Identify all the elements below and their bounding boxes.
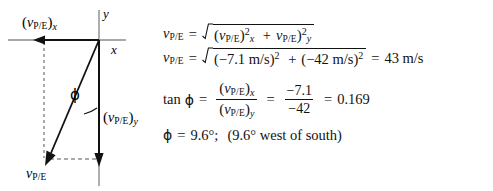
resultant-label-sub: P/E xyxy=(32,172,46,182)
equation-line-4: ϕ = 9.6°; (9.6° west of south) xyxy=(163,127,489,144)
eq3-num-axis: x xyxy=(250,87,254,98)
eq3-den-sub: P/E xyxy=(231,109,245,119)
eq2-term1-sup: 2 xyxy=(275,50,280,61)
eq3-numeric-fraction: −7.1 −42 xyxy=(284,83,315,116)
y-component-label-sub: P/E xyxy=(114,116,128,126)
eq3-fraction-numerator: (vP/E)x xyxy=(216,80,257,100)
radical-tick-1 xyxy=(202,24,213,44)
eq1-equals: = xyxy=(184,26,202,43)
eq1-radicand: (vP/E)2x +vP/E)2y xyxy=(213,24,314,44)
eq3-tan: tan xyxy=(163,91,181,108)
equation-block: vP/E = (vP/E)2x +vP/E)2y vP/E = xyxy=(163,24,489,144)
x-component-label-sub: P/E xyxy=(33,21,47,31)
eq2-lhs-sub: P/E xyxy=(169,57,183,67)
eq1-term1-sub: P/E xyxy=(225,34,239,44)
eq1-radical: (vP/E)2x +vP/E)2y xyxy=(202,24,314,44)
eq3-numeric-denominator: −42 xyxy=(285,99,313,116)
eq4-value: 9.6°; xyxy=(190,127,218,144)
eq3-equals-2: = xyxy=(261,91,279,108)
x-component-label-axis: x xyxy=(53,21,57,32)
eq3-den-axis: y xyxy=(250,108,254,119)
eq4-note: (9.6° west of south) xyxy=(227,127,342,144)
eq1-term2-sub: P/E xyxy=(282,34,296,44)
eq2-equals: = xyxy=(184,50,202,67)
angle-arc xyxy=(84,108,97,114)
x-component-arrowhead xyxy=(33,36,45,45)
eq3-equals: = xyxy=(194,91,212,108)
eq2-equals-2: = xyxy=(366,50,384,67)
eq2-radicand: (−7.1 m/s)2 +(−42 m/s)2 xyxy=(213,48,366,68)
y-component-label-axis: y xyxy=(134,116,138,127)
figure-page: y x (vP/E)x (vP/E)y vP/E ϕ vP/E = xyxy=(0,0,493,191)
angle-phi-symbol: ϕ xyxy=(70,88,80,103)
eq3-result: 0.169 xyxy=(337,91,370,108)
eq2-result: 43 m/s xyxy=(384,50,423,67)
eq2-plus: + xyxy=(283,51,301,67)
equation-line-1: vP/E = (vP/E)2x +vP/E)2y xyxy=(163,24,489,44)
eq3-fraction-denominator: (vP/E)y xyxy=(216,99,257,120)
eq1-term1-axis: x xyxy=(250,33,254,44)
x-axis-label: x xyxy=(111,43,117,56)
eq3-numeric-numerator: −7.1 xyxy=(284,83,315,99)
resultant-label: vP/E xyxy=(26,167,47,183)
vector-diagram: y x (vP/E)x (vP/E)y vP/E ϕ xyxy=(0,0,155,191)
eq1-plus: + xyxy=(258,27,276,43)
eq3-phi: ϕ xyxy=(185,92,194,108)
eq2-term1: (−7.1 m/s) xyxy=(214,51,275,67)
y-component-arrowhead xyxy=(94,153,103,167)
eq1-term2-axis: y xyxy=(307,33,311,44)
eq3-equals-3: = xyxy=(319,91,337,108)
equation-line-2: vP/E = (−7.1 m/s)2 +(−42 m/s)2 = 43 m/s xyxy=(163,48,489,68)
eq4-equals: = xyxy=(172,127,190,144)
eq1-lhs-sub: P/E xyxy=(169,33,183,43)
eq2-term2-sup: 2 xyxy=(358,50,363,61)
resultant-arrowhead xyxy=(45,151,56,167)
equation-line-3: tan ϕ = (vP/E)x (vP/E)y = −7.1 −42 = 0.1… xyxy=(163,80,489,120)
eq2-radical: (−7.1 m/s)2 +(−42 m/s)2 xyxy=(202,48,366,68)
x-component-label: (vP/E)x xyxy=(22,15,57,32)
eq3-component-fraction: (vP/E)x (vP/E)y xyxy=(216,80,257,120)
eq2-term2: (−42 m/s) xyxy=(301,51,358,67)
radical-tick-2 xyxy=(202,48,213,68)
eq4-phi: ϕ xyxy=(163,127,172,143)
eq3-num-sub: P/E xyxy=(231,87,245,97)
y-component-label: (vP/E)y xyxy=(103,110,138,127)
y-axis-label: y xyxy=(103,7,109,20)
